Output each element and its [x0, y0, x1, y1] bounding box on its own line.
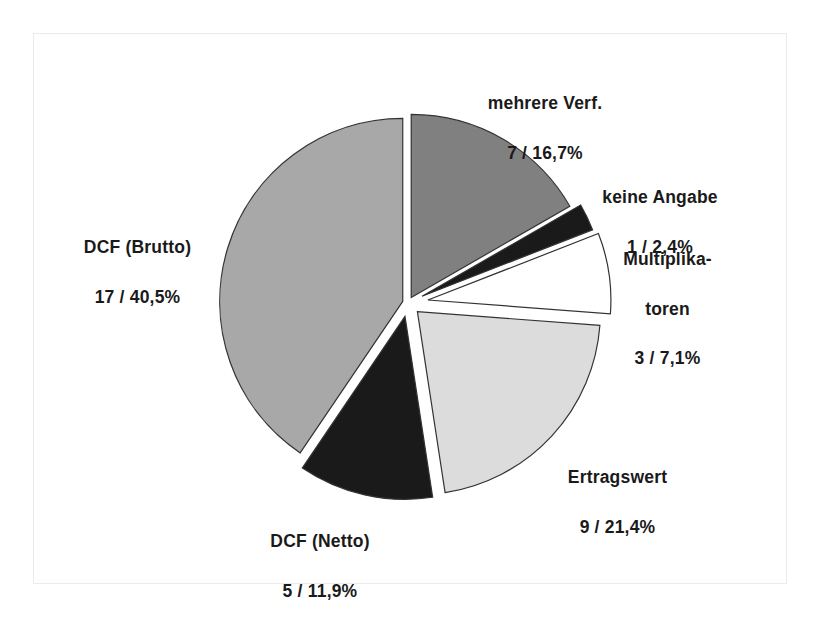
pie-label-dcf-netto: DCF (Netto) 5 / 11,9% [200, 504, 440, 617]
pie-label-multiplikatoren-name-line2: toren [560, 297, 775, 322]
pie-label-ertragswert-name: Ertragswert [500, 465, 735, 490]
pie-label-mehrere-verf-name: mehrere Verf. [430, 91, 660, 116]
pie-label-keine-angabe-name: keine Angabe [545, 185, 775, 210]
pie-label-dcf-brutto-value: 17 / 40,5% [20, 285, 255, 310]
pie-label-multiplikatoren-value: 3 / 7,1% [560, 346, 775, 371]
pie-label-dcf-brutto: DCF (Brutto) 17 / 40,5% [20, 210, 255, 334]
pie-label-dcf-brutto-name: DCF (Brutto) [20, 235, 255, 260]
pie-label-multiplikatoren: Multiplika- toren 3 / 7,1% [560, 222, 775, 396]
pie-chart-figure: mehrere Verf. 7 / 16,7% keine Angabe 1 /… [0, 0, 823, 617]
pie-label-dcf-netto-value: 5 / 11,9% [200, 579, 440, 604]
pie-label-dcf-netto-name: DCF (Netto) [200, 529, 440, 554]
pie-label-multiplikatoren-name-line1: Multiplika- [560, 247, 775, 272]
pie-label-ertragswert-value: 9 / 21,4% [500, 515, 735, 540]
pie-label-ertragswert: Ertragswert 9 / 21,4% [500, 440, 735, 564]
